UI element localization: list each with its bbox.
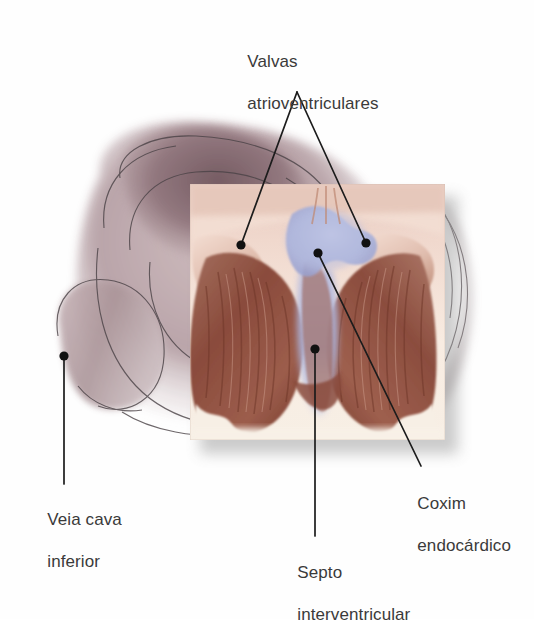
label-veia-cava-inferior: Veia cava inferior (28, 488, 122, 593)
label-valvas-atrioventriculares: Valvas atrioventriculares (228, 30, 379, 135)
label-valvas-line1: Valvas (247, 52, 297, 71)
dot-coxim (313, 248, 322, 257)
label-coxim-line2: endocárdico (417, 536, 511, 555)
label-veia-line1: Veia cava (47, 510, 122, 529)
label-veia-line2: inferior (47, 552, 100, 571)
label-coxim-endocardico: Coxim endocárdico (398, 472, 511, 577)
label-valvas-line2: atrioventriculares (247, 94, 378, 113)
dot-valva-right (361, 238, 370, 247)
dot-veia-cava (59, 351, 68, 360)
label-septo-line1: Septo (297, 563, 342, 582)
dot-valva-left (236, 240, 245, 249)
dot-septo (310, 344, 319, 353)
label-septo-interventricular: Septo interventricular (278, 541, 410, 624)
label-septo-line2: interventricular (297, 605, 410, 624)
label-coxim-line1: Coxim (417, 494, 466, 513)
magnified-ventricle-inset (190, 184, 445, 450)
